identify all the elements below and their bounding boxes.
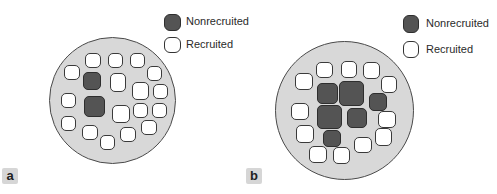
recruited-cell	[110, 73, 126, 92]
nonrecruited-cell	[339, 81, 364, 106]
recruited-cell	[309, 146, 327, 163]
legend-recruited-label: Recruited	[186, 38, 233, 50]
recruited-cell	[341, 61, 357, 78]
recruited-cell	[295, 73, 313, 90]
legend-recruited-swatch	[164, 37, 181, 53]
recruited-cell	[130, 53, 145, 68]
recruited-cell	[112, 105, 130, 123]
nonrecruited-cell	[369, 93, 387, 111]
recruited-cell	[147, 66, 162, 81]
nonrecruited-cell	[317, 83, 338, 104]
legend-nonrecruited-label: Nonrecruited	[426, 17, 489, 29]
recruited-cell	[153, 84, 168, 99]
recruited-cell	[100, 135, 115, 150]
recruited-cell	[64, 65, 80, 80]
recruited-cell	[375, 128, 392, 146]
recruited-cell	[363, 62, 380, 79]
recruited-cell	[82, 125, 98, 140]
recruited-cell	[61, 116, 76, 131]
legend-nonrecruited-label: Nonrecruited	[186, 15, 249, 27]
recruited-cell	[316, 62, 333, 78]
recruited-cell	[141, 120, 157, 135]
nonrecruited-cell	[84, 96, 105, 117]
recruited-cell	[85, 53, 101, 68]
nonrecruited-cell	[323, 130, 341, 147]
recruited-cell	[152, 103, 167, 118]
legend-nonrecruited-swatch	[403, 15, 419, 33]
recruited-cell	[61, 93, 76, 108]
recruited-cell	[132, 82, 149, 100]
nonrecruited-cell	[347, 108, 367, 128]
legend-nonrecruited-swatch	[164, 14, 181, 31]
nonrecruited-cell	[83, 72, 101, 90]
panel-label-b: b	[246, 168, 262, 184]
legend-recruited-label: Recruited	[426, 43, 473, 55]
recruited-cell	[133, 103, 148, 118]
recruited-cell	[381, 76, 397, 93]
recruited-cell	[354, 137, 372, 153]
recruited-cell	[333, 147, 350, 164]
recruited-cell	[120, 127, 136, 142]
recruited-cell	[291, 103, 309, 120]
nonrecruited-cell	[317, 105, 342, 129]
legend-recruited-swatch	[403, 41, 419, 58]
recruited-cell	[108, 53, 123, 68]
recruited-cell	[378, 111, 396, 128]
panel-label-a: a	[2, 168, 18, 184]
recruited-cell	[296, 125, 314, 143]
